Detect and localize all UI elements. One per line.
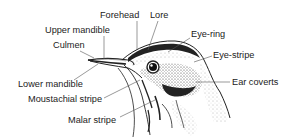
label-upper-mandible: Upper mandible (45, 25, 110, 35)
label-lore: Lore (150, 10, 168, 20)
nape-stipple (200, 62, 228, 122)
label-lower-mandible: Lower mandible (18, 79, 83, 89)
label-moustachial-stripe: Moustachial stripe (28, 94, 102, 104)
eye (147, 61, 159, 73)
label-ear-coverts: Ear coverts (232, 77, 278, 87)
label-eye-ring: Eye-ring (191, 29, 225, 39)
throat-stipple (170, 100, 197, 136)
leader-moustachial (104, 80, 140, 98)
leader-malar (120, 100, 155, 117)
bird-head-diagram: Forehead Lore Upper mandible Eye-ring Cu… (0, 0, 296, 137)
leader-culmen (80, 51, 94, 58)
bird-head-illustration (0, 0, 296, 137)
label-eye-stripe: Eye-stripe (213, 50, 254, 60)
label-culmen: Culmen (53, 40, 85, 50)
label-forehead: Forehead (100, 10, 139, 20)
leader-lower-mandible (74, 64, 98, 80)
label-malar-stripe: Malar stripe (68, 115, 116, 125)
